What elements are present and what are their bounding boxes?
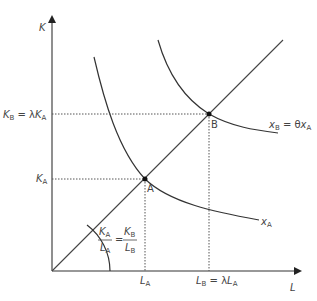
x-axis-label: L <box>290 282 296 293</box>
isoquant-a-label: xA <box>260 216 272 229</box>
svg-text:KB: KB <box>124 226 136 239</box>
expansion-ray <box>52 40 283 271</box>
svg-text:LB: LB <box>125 242 136 255</box>
y-axis-label: K <box>39 22 47 33</box>
svg-text:KA: KA <box>99 226 111 239</box>
isoquant-b-curve <box>158 40 278 133</box>
point-a <box>143 177 148 182</box>
isoquant-b-label: xB = θxA <box>268 119 312 132</box>
point-b-label: B <box>211 119 218 130</box>
point-a-label: A <box>147 183 154 194</box>
x-tick-la: LA <box>140 275 151 288</box>
y-tick-ka: KA <box>36 173 48 186</box>
svg-text:=: = <box>115 234 123 245</box>
svg-text:LA: LA <box>100 242 111 255</box>
angle-ratio-label: KA LA = KB LB <box>98 226 137 255</box>
y-tick-kb: KB = λKA <box>3 109 47 122</box>
production-diagram: K L KB = λKA KA LA LB = λLA A B xA xB = … <box>0 0 317 301</box>
point-b <box>207 112 212 117</box>
x-tick-lb: LB = λLA <box>196 275 238 288</box>
